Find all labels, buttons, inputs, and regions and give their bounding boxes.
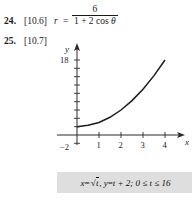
equals-sign: = bbox=[63, 16, 68, 26]
exercise-number: 25. bbox=[4, 36, 16, 46]
x-tick-label-1: 1 bbox=[97, 140, 101, 150]
answer-box: x=√t, y=t + 2; 0 ≤ t ≤ 16 bbox=[57, 172, 192, 193]
polar-variable-r: r bbox=[54, 16, 58, 26]
theta-symbol: θ bbox=[111, 16, 116, 26]
x-axis-label: x bbox=[184, 137, 189, 147]
answer-equals-1: = bbox=[85, 178, 90, 188]
parametric-equations-text: x=√t, y=t + 2; 0 ≤ t ≤ 16 bbox=[79, 178, 171, 188]
x-tick-label-4: 4 bbox=[163, 140, 168, 150]
y-axis-label: y bbox=[64, 44, 69, 54]
exercise-section-reference: [10.7] bbox=[24, 36, 47, 46]
x-tick-label-3: 3 bbox=[141, 140, 145, 150]
polar-equation-fraction: 6 1 + 2 cos θ bbox=[72, 5, 118, 27]
y-tick-label-neg2: −2 bbox=[60, 142, 69, 152]
answer-y-expression: t + 2; bbox=[113, 178, 134, 188]
parametric-curve-graph: y x 18 −2 1 2 3 4 bbox=[52, 40, 192, 162]
fraction-denominator: 1 + 2 cos θ bbox=[72, 17, 118, 27]
x-tick-label-2: 2 bbox=[119, 140, 123, 150]
graph-svg: y x 18 −2 1 2 3 4 bbox=[52, 40, 192, 162]
exercise-section-reference: [10.6] bbox=[24, 16, 47, 26]
curve-y-equals-x-squared-plus-2 bbox=[77, 60, 165, 127]
fraction-numerator: 6 bbox=[72, 5, 118, 15]
answer-comma: , bbox=[99, 178, 101, 188]
exercise-24-row: 24. [10.6] r = 6 1 + 2 cos θ bbox=[0, 4, 192, 30]
answer-domain: 0 ≤ t ≤ 16 bbox=[136, 178, 171, 188]
sqrt-icon: √ bbox=[90, 178, 96, 188]
exercise-number: 24. bbox=[4, 16, 16, 26]
denominator-text: 1 + 2 cos bbox=[74, 16, 111, 26]
y-tick-label-18: 18 bbox=[60, 55, 69, 65]
